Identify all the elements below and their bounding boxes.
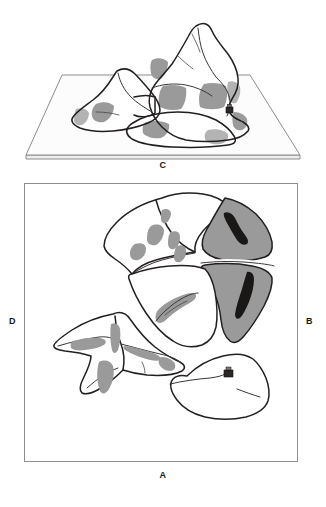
north-patch-5	[174, 245, 186, 262]
edge-label-d: D	[9, 316, 16, 326]
base-plate-edge	[26, 155, 300, 159]
perspective-caption: C	[0, 160, 326, 170]
south-lobe	[170, 354, 269, 419]
sw-patch-lower	[97, 361, 114, 394]
plan-svg	[25, 184, 297, 461]
edge-label-a: A	[0, 470, 326, 480]
facet-center	[159, 85, 187, 110]
edge-label-b: B	[306, 316, 313, 326]
perspective-svg	[0, 0, 326, 168]
facet-east-upper	[199, 83, 227, 109]
south-lobe-fill	[171, 354, 269, 419]
figure-root: C	[0, 0, 326, 507]
plan-view-frame	[24, 183, 298, 462]
perspective-view	[0, 0, 326, 168]
